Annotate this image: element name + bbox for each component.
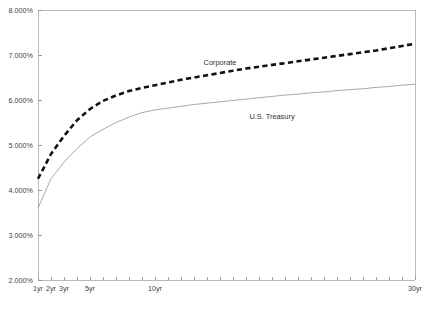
y-tick-label: 3.000%: [9, 231, 34, 240]
series-label-corporate: Corporate: [204, 58, 237, 67]
y-tick-label: 5.000%: [9, 141, 34, 150]
x-tick-label-10yr: 10yr: [148, 284, 163, 293]
chart-background: [0, 0, 430, 316]
y-tick-label: 6.000%: [9, 96, 34, 105]
chart-canvas: 2.000%3.000%4.000%5.000%6.000%7.000%8.00…: [0, 0, 430, 316]
yield-curve-chart: 2.000%3.000%4.000%5.000%6.000%7.000%8.00…: [0, 0, 430, 316]
x-tick-label-3yr: 3yr: [59, 284, 70, 293]
x-tick-label-2yr: 2yr: [46, 284, 57, 293]
series-label-u-s-treasury: U.S. Treasury: [249, 112, 294, 121]
y-tick-label: 2.000%: [9, 276, 34, 285]
y-tick-label: 4.000%: [9, 186, 34, 195]
x-tick-label-5yr: 5yr: [85, 284, 96, 293]
y-tick-label: 8.000%: [9, 6, 34, 15]
x-tick-label-30yr: 30yr: [408, 284, 423, 293]
y-tick-label: 7.000%: [9, 51, 34, 60]
x-tick-label-1yr: 1yr: [33, 284, 44, 293]
